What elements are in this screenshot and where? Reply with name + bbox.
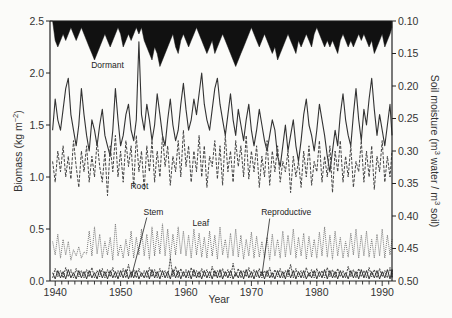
right-tick-label: 0.35 (398, 177, 419, 189)
left-tick-label: 0.5 (29, 223, 44, 235)
x-tick-label: 1940 (44, 286, 68, 298)
root-label: Root (130, 181, 149, 191)
leaf-label: Leaf (193, 218, 210, 228)
right-tick-label: 0.15 (398, 47, 419, 59)
right-tick-label: 0.50 (398, 275, 419, 287)
stem-label: Stem (144, 207, 164, 217)
right-tick-label: 0.20 (398, 80, 419, 92)
x-tick-label: 1980 (305, 286, 329, 298)
y-axis-title-right: Soil moisture (m3 water / m3 soil) (429, 75, 442, 227)
root-series-line (53, 130, 392, 196)
x-tick-label: 1970 (240, 286, 264, 298)
dormant-label: Dormant (91, 60, 124, 70)
left-tick-label: 1.5 (29, 119, 44, 131)
right-tick-label: 0.45 (398, 242, 419, 254)
right-tick-label: 0.30 (398, 145, 419, 157)
biomass-soil-moisture-chart: 0.00.51.01.52.02.50.100.150.200.250.300.… (0, 0, 452, 318)
x-axis-title: Year (208, 293, 230, 305)
reproductive-leader-line (262, 219, 270, 276)
x-tick-label: 1990 (371, 286, 395, 298)
x-tick-label: 1950 (109, 286, 133, 298)
x-tick-label: 1960 (174, 286, 198, 298)
y-axis-title-left: Biomass (kg m−2) (11, 110, 24, 192)
reproductive-label: Reproductive (261, 207, 311, 217)
left-tick-label: 0.0 (29, 275, 44, 287)
left-tick-label: 2.5 (29, 15, 44, 27)
right-tick-label: 0.10 (398, 15, 419, 27)
leaf-series-line (53, 224, 392, 260)
right-tick-label: 0.25 (398, 112, 419, 124)
left-tick-label: 1.0 (29, 171, 44, 183)
left-tick-label: 2.0 (29, 67, 44, 79)
right-tick-label: 0.40 (398, 210, 419, 222)
